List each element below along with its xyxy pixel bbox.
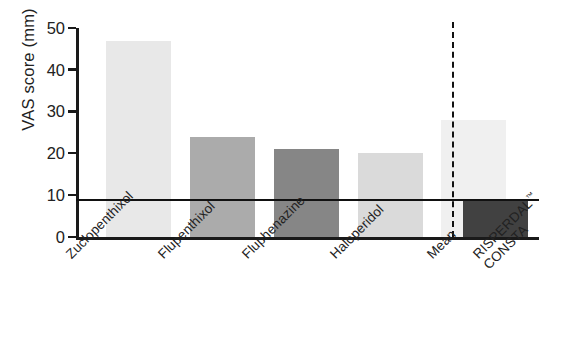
x-label-risperdal-consta: RISPERDAL™ CONSTA <box>470 191 552 273</box>
x-label-fluphenazine: Fluphenazine <box>239 193 308 262</box>
bar-chart: VAS score (mm) 0 10 20 30 40 50 Zu <box>0 0 575 346</box>
x-label-zuclopenthixol: Zuclopenthixol <box>63 188 136 261</box>
x-label-flupenthixol: Flupenthixol <box>155 199 218 262</box>
x-label-mean: Mean <box>424 227 459 262</box>
x-label-haloperidol: Haloperidol <box>327 202 387 262</box>
x-axis-category-labels: Zuclopenthixol Flupenthixol Fluphenazine… <box>0 0 575 346</box>
